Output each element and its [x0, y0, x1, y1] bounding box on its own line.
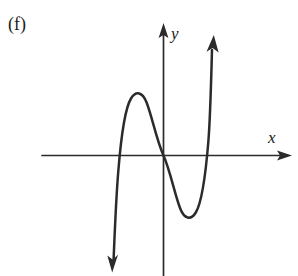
x-axis-label: x — [268, 128, 276, 148]
y-axis-label: y — [171, 24, 179, 44]
figure-container: (f) y x — [0, 0, 298, 276]
graph-plot — [0, 0, 298, 276]
